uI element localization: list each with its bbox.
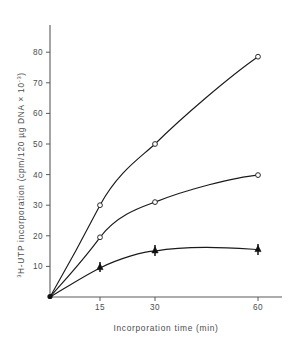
y-tick-label: 20 bbox=[33, 232, 43, 241]
svg-text:3H-UTP incorporation (cpm/120: 3H-UTP incorporation (cpm/120 µg DNA × 1… bbox=[16, 72, 26, 278]
origin-marker bbox=[47, 294, 52, 299]
y-tick-label: 80 bbox=[33, 48, 43, 57]
y-tick-label: 40 bbox=[33, 171, 43, 180]
data-point bbox=[153, 142, 158, 147]
y-axis-title-suffix: ) bbox=[16, 72, 26, 76]
y-axis-title-main: H-UTP incorporation (cpm/120 µg DNA × 10 bbox=[16, 82, 26, 274]
x-tick-label: 60 bbox=[253, 303, 263, 312]
y-axis-title: 3H-UTP incorporation (cpm/120 µg DNA × 1… bbox=[16, 72, 26, 278]
y-tick-label: 30 bbox=[33, 201, 43, 210]
incorporation-time-chart: 80 70 60 50 40 30 20 10 15 30 60 Incorpo… bbox=[0, 0, 304, 348]
x-tick-label: 15 bbox=[95, 303, 105, 312]
y-tick-label: 70 bbox=[33, 79, 43, 88]
data-point bbox=[256, 54, 261, 59]
x-axis-title: Incorporation time (min) bbox=[113, 323, 218, 333]
y-tick-label: 60 bbox=[33, 109, 43, 118]
data-point bbox=[153, 200, 158, 205]
x-tick-label: 30 bbox=[150, 303, 160, 312]
y-tick-label: 50 bbox=[33, 140, 43, 149]
data-point bbox=[98, 203, 103, 208]
data-point bbox=[256, 173, 261, 178]
y-tick-label: 10 bbox=[33, 262, 43, 271]
data-point bbox=[98, 235, 103, 240]
